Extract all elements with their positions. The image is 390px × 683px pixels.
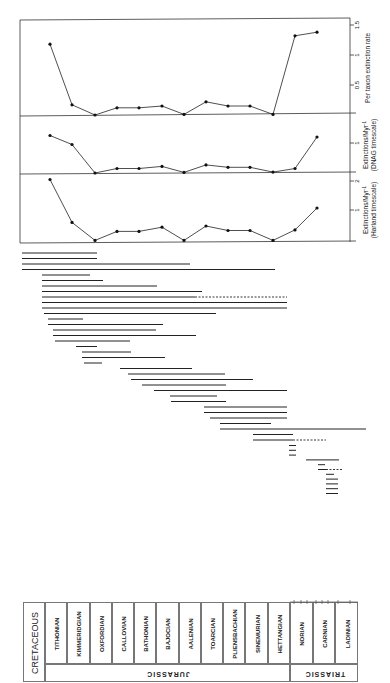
triassic-ticks: [0, 0, 390, 683]
